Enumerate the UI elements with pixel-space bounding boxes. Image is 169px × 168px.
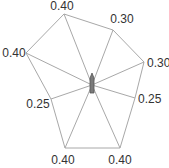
value-label: 0.30 (110, 12, 134, 26)
radar-spoke (51, 85, 92, 99)
value-label: 0.40 (108, 153, 132, 167)
radar-spoke (64, 14, 92, 85)
center-marker-icon (90, 73, 94, 93)
radar-spoke (65, 85, 92, 148)
radar-spoke (92, 85, 135, 98)
value-labels: 0.400.300.300.250.400.400.250.40 (2, 0, 169, 167)
value-label: 0.25 (138, 92, 162, 106)
value-label: 0.40 (51, 153, 75, 167)
value-label: 0.40 (2, 46, 26, 60)
value-label: 0.40 (50, 0, 74, 13)
value-label: 0.30 (147, 56, 169, 70)
radar-spoke (26, 53, 92, 85)
radar-spoke (92, 85, 120, 148)
radar-outline (26, 14, 144, 148)
value-label: 0.25 (26, 97, 50, 111)
radar-chart: 0.400.300.300.250.400.400.250.40 (0, 0, 169, 168)
